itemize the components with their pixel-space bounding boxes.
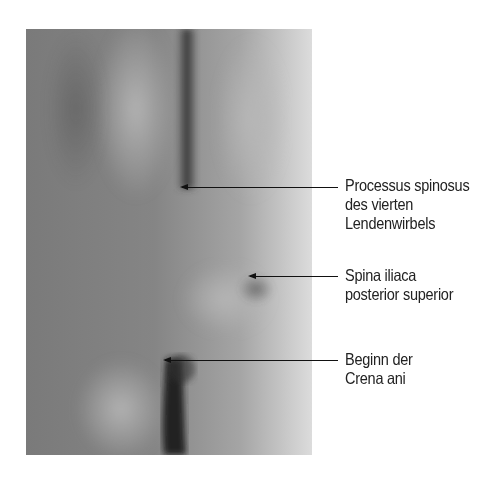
label-line: posterior superior — [345, 285, 453, 304]
arrowhead-crena-ani — [163, 357, 171, 363]
back-photo-illustration — [26, 29, 312, 455]
leader-line-spina-iliaca — [250, 276, 338, 277]
arrowhead-spina-iliaca — [248, 273, 256, 279]
label-line: Crena ani — [345, 369, 413, 388]
anatomy-photo — [26, 29, 312, 455]
leader-line-processus-spinosus — [182, 187, 338, 188]
arrowhead-processus-spinosus — [180, 184, 188, 190]
label-line: des vierten — [345, 195, 469, 214]
label-spina-iliaca: Spina iliaca posterior superior — [345, 266, 453, 304]
label-crena-ani: Beginn der Crena ani — [345, 350, 413, 388]
label-line: Beginn der — [345, 350, 413, 369]
leader-line-crena-ani — [165, 360, 338, 361]
label-processus-spinosus: Processus spinosus des vierten Lendenwir… — [345, 176, 469, 233]
label-line: Processus spinosus — [345, 176, 469, 195]
label-line: Lendenwirbels — [345, 214, 469, 233]
label-line: Spina iliaca — [345, 266, 453, 285]
